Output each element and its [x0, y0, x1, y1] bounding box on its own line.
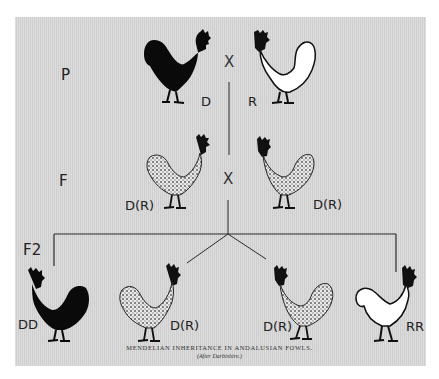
genotype-label-p-d: D — [201, 95, 211, 108]
genotype-label-f2-dr-2: D(R) — [263, 320, 292, 333]
white-rooster-icon — [250, 26, 320, 106]
genotype-label-f2-dr-1: D(R) — [170, 319, 199, 332]
generation-label-f2: F2 — [23, 243, 41, 258]
genotype-label-f-2: D(R) — [313, 198, 342, 211]
generation-label-p: P — [61, 68, 70, 83]
genotype-label-f2-rr: RR — [406, 320, 424, 333]
genotype-label-f2-dd: DD — [18, 318, 38, 331]
caption-credit: (After Darbishire.) — [0, 353, 439, 359]
caption-title: MENDELIAN INHERITANCE IN ANDALUSIAN FOWL… — [0, 344, 439, 351]
cross-symbol-f: X — [223, 172, 233, 187]
cross-symbol-p: X — [224, 55, 234, 70]
generation-label-f: F — [59, 174, 68, 189]
genotype-label-p-r: R — [248, 95, 257, 108]
black-rooster-icon — [22, 264, 94, 344]
figure-caption: MENDELIAN INHERITANCE IN ANDALUSIAN FOWL… — [0, 344, 439, 359]
genotype-label-f-1: D(R) — [125, 199, 154, 212]
speckled-rooster-icon — [144, 133, 214, 213]
